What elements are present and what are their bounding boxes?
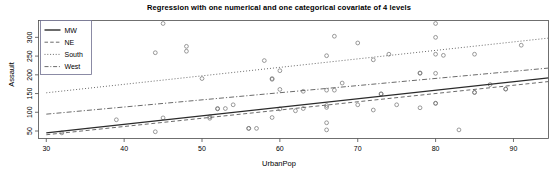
data-point: [504, 87, 508, 91]
regression-line-mw: [46, 78, 548, 133]
data-point: [434, 71, 438, 75]
data-point: [356, 103, 360, 107]
data-point: [418, 106, 422, 110]
y-tick-label: 100: [26, 106, 33, 118]
legend-label-south: South: [65, 51, 83, 58]
data-point: [270, 116, 274, 120]
data-point: [255, 126, 259, 130]
legend-label-west: West: [65, 63, 81, 70]
regression-line-south: [46, 38, 548, 93]
x-tick-label: 80: [432, 145, 440, 152]
data-point: [185, 49, 189, 53]
x-tick-label: 70: [354, 145, 362, 152]
data-point: [153, 130, 157, 134]
regression-plot: Regression with one numerical and one ca…: [0, 0, 558, 176]
data-point: [200, 77, 204, 81]
y-axis-ticks: 50100150200250300: [26, 31, 39, 134]
data-point: [473, 91, 477, 95]
regression-line-ne: [46, 82, 548, 135]
y-tick-label: 150: [26, 88, 33, 100]
data-point: [325, 121, 329, 125]
data-point: [223, 107, 227, 111]
x-tick-label: 40: [120, 145, 128, 152]
scatter-points-group: [60, 22, 523, 135]
data-point: [434, 101, 438, 105]
data-point: [278, 88, 282, 92]
data-point: [325, 54, 329, 58]
data-point: [231, 103, 235, 107]
y-tick-label: 50: [26, 127, 33, 135]
x-tick-label: 30: [42, 145, 50, 152]
data-point: [473, 52, 477, 56]
data-point: [294, 109, 298, 113]
data-point: [161, 116, 165, 120]
data-point: [441, 53, 445, 57]
data-point: [114, 118, 118, 122]
data-point: [457, 128, 461, 132]
y-tick-label: 300: [26, 31, 33, 43]
x-tick-label: 50: [198, 145, 206, 152]
data-point: [434, 35, 438, 39]
data-point: [395, 103, 399, 107]
x-tick-label: 90: [510, 145, 518, 152]
legend-label-mw: MW: [65, 27, 78, 34]
data-point: [247, 126, 251, 130]
legend-label-ne: NE: [65, 39, 75, 46]
data-point: [262, 59, 266, 63]
y-tick-label: 250: [26, 50, 33, 62]
data-point: [340, 81, 344, 85]
data-point: [519, 43, 523, 47]
data-point: [356, 41, 360, 45]
data-point: [434, 22, 438, 26]
legend: MWNESouthWest: [41, 21, 92, 75]
data-point: [434, 52, 438, 56]
plot-canvas: 30405060708090 50100150200250300 MWNESou…: [0, 0, 558, 176]
data-point: [153, 51, 157, 55]
data-point: [371, 108, 375, 112]
data-point: [185, 44, 189, 48]
data-point: [278, 69, 282, 73]
data-point: [161, 22, 165, 26]
x-tick-label: 60: [276, 145, 284, 152]
data-point: [371, 58, 375, 62]
x-axis-ticks: 30405060708090: [42, 139, 517, 152]
data-point: [325, 128, 329, 132]
data-point: [332, 34, 336, 38]
data-point: [332, 88, 336, 92]
y-tick-label: 200: [26, 69, 33, 81]
data-point: [379, 92, 383, 96]
